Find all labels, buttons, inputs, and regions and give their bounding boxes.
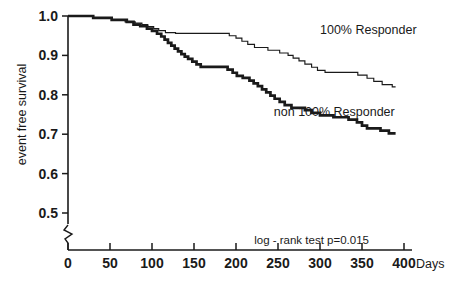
survival-chart-figure: 0.50.60.70.80.91.0 050100150200250300350… [0, 0, 455, 290]
x-tick-label: 200 [224, 255, 248, 271]
x-tick-label: 250 [266, 255, 290, 271]
x-tick-label: 50 [102, 255, 118, 271]
plot-axes [64, 16, 412, 250]
y-tick-label: 0.8 [39, 87, 59, 103]
x-tick-label: 150 [182, 255, 206, 271]
kaplan-meier-plot: 0.50.60.70.80.91.0 050100150200250300350… [0, 0, 455, 290]
series-label-100-percent-responder: 100% Responder [320, 23, 417, 37]
log-rank-test-annotation: log - rank test p=0.015 [254, 234, 369, 246]
x-axis-title: Days [416, 257, 444, 271]
y-axis-ticks: 0.50.60.70.80.91.0 [39, 8, 68, 221]
x-tick-label: 350 [350, 255, 374, 271]
x-tick-label: 0 [64, 255, 72, 271]
y-tick-label: 0.5 [39, 205, 59, 221]
x-tick-label: 300 [308, 255, 332, 271]
y-tick-label: 0.6 [39, 166, 59, 182]
y-tick-label: 0.9 [39, 47, 59, 63]
x-tick-label: 400 [392, 255, 416, 271]
x-tick-label: 100 [140, 255, 164, 271]
y-axis-title: event free survival [15, 64, 29, 165]
y-tick-label: 0.7 [39, 126, 59, 142]
y-tick-label: 1.0 [39, 8, 59, 24]
series-label-non-100-percent-responder: non 100% Responder [274, 105, 395, 119]
x-axis-ticks: 050100150200250300350400 [64, 243, 416, 271]
